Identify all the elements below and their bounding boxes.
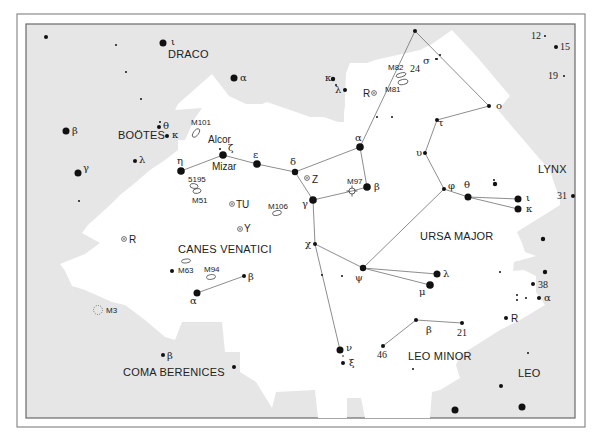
star-label: 15 bbox=[560, 41, 570, 52]
star bbox=[165, 134, 169, 138]
star bbox=[159, 121, 161, 123]
star bbox=[360, 265, 366, 271]
star bbox=[493, 182, 497, 186]
star-label: κ bbox=[172, 129, 179, 140]
star-label: 21 bbox=[457, 327, 467, 338]
star-label: 38 bbox=[538, 279, 548, 290]
variable-star-label: TU bbox=[236, 199, 249, 210]
star bbox=[414, 318, 418, 322]
star bbox=[434, 271, 441, 278]
star-label: τ bbox=[438, 117, 444, 128]
star bbox=[140, 98, 142, 100]
star bbox=[452, 407, 459, 414]
star bbox=[426, 281, 434, 289]
star bbox=[525, 297, 527, 299]
star bbox=[309, 196, 317, 204]
star bbox=[499, 384, 503, 388]
star bbox=[460, 321, 464, 325]
star-label: α bbox=[190, 295, 197, 306]
star bbox=[63, 128, 70, 135]
star-label: σ bbox=[423, 55, 430, 66]
star bbox=[170, 269, 174, 273]
star-label: ν bbox=[346, 342, 352, 353]
star-label: β bbox=[426, 324, 432, 335]
star-label: δ bbox=[290, 156, 296, 167]
star bbox=[313, 242, 317, 246]
constellation-name: URSA MAJOR bbox=[420, 230, 494, 242]
star-name-label: Alcor bbox=[208, 134, 231, 145]
star bbox=[242, 274, 246, 278]
star-label: ε bbox=[253, 149, 258, 160]
star-name-label: Mizar bbox=[212, 161, 237, 172]
star bbox=[177, 167, 185, 175]
star bbox=[519, 404, 526, 411]
deep-sky-label: M97 bbox=[347, 177, 363, 186]
star-label: λ bbox=[139, 154, 146, 165]
star bbox=[543, 270, 547, 274]
star-label: υ bbox=[416, 147, 422, 158]
star bbox=[412, 368, 414, 370]
star-label: ι bbox=[526, 192, 530, 203]
star bbox=[292, 169, 298, 175]
deep-sky-label: M82 bbox=[388, 63, 404, 72]
star bbox=[541, 237, 545, 241]
constellation-name: DRACO bbox=[168, 48, 209, 60]
deep-sky-label: M101 bbox=[191, 118, 212, 127]
star-label: 31 bbox=[557, 190, 567, 201]
constellation-name: LYNX bbox=[538, 163, 567, 175]
star bbox=[516, 294, 518, 296]
star-label: ψ bbox=[355, 272, 363, 283]
star-label: κ bbox=[526, 203, 533, 214]
constellation-name: CANES VENATICI bbox=[178, 243, 272, 255]
star-label: γ bbox=[83, 162, 89, 173]
star bbox=[487, 104, 491, 108]
star bbox=[381, 344, 385, 348]
star-label: κ bbox=[325, 72, 332, 83]
constellation-name: LEO MINOR bbox=[408, 350, 472, 362]
star bbox=[341, 361, 345, 365]
constellation-name: BOÖTES bbox=[118, 129, 165, 141]
star-label: μ bbox=[419, 286, 426, 297]
star bbox=[504, 316, 508, 320]
star-chart: M101M82M815195M51M106M63M94M97M3 RZTUYR … bbox=[0, 0, 595, 438]
variable-star-label: R bbox=[129, 234, 136, 245]
star bbox=[78, 200, 80, 202]
star bbox=[376, 116, 378, 118]
star bbox=[544, 35, 546, 37]
star bbox=[341, 275, 343, 277]
star bbox=[125, 71, 127, 73]
star-label: φ bbox=[448, 180, 455, 191]
deep-sky-label: M94 bbox=[204, 265, 220, 274]
star bbox=[232, 365, 236, 369]
star bbox=[343, 88, 347, 92]
star bbox=[219, 151, 227, 159]
star bbox=[253, 160, 261, 168]
star bbox=[356, 143, 364, 151]
star bbox=[413, 29, 417, 33]
star-label: η bbox=[177, 155, 183, 166]
star bbox=[554, 45, 558, 49]
star bbox=[537, 296, 541, 300]
star bbox=[321, 274, 323, 276]
star bbox=[531, 282, 535, 286]
star bbox=[563, 75, 565, 77]
star bbox=[499, 271, 501, 273]
star-label: β bbox=[248, 271, 254, 282]
variable-star-label: Y bbox=[244, 223, 251, 234]
star-label: χ bbox=[305, 238, 311, 249]
star-label: β bbox=[72, 125, 78, 136]
deep-sky-label: M3 bbox=[106, 306, 118, 315]
star bbox=[515, 206, 522, 213]
variable-star-label: R bbox=[363, 88, 370, 99]
star bbox=[516, 299, 518, 301]
star-label: α bbox=[544, 292, 551, 303]
constellation-name: LEO bbox=[518, 367, 541, 379]
star bbox=[115, 44, 117, 46]
star-label: 12 bbox=[531, 30, 541, 41]
star bbox=[423, 151, 427, 155]
star-label: ξ bbox=[349, 357, 355, 368]
star-label: R bbox=[511, 313, 518, 324]
star bbox=[436, 58, 438, 60]
star bbox=[439, 54, 441, 56]
constellation-name: COMA BERENICES bbox=[123, 366, 225, 378]
